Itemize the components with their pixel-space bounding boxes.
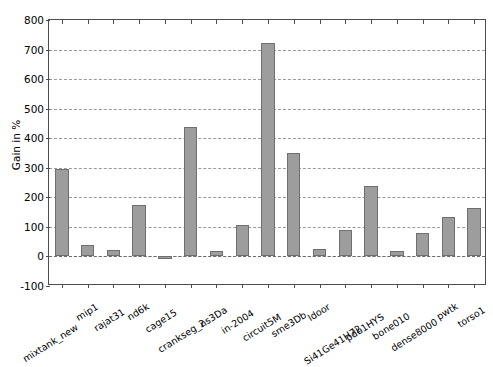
x-axis-tick-mark-top <box>62 20 63 24</box>
x-axis-tick-mark-top <box>191 20 192 24</box>
x-axis-tick-mark <box>191 284 192 288</box>
x-axis-tick-mark-top <box>448 20 449 24</box>
plot-area: -1000100200300400500600700800 <box>48 19 486 285</box>
x-axis-tick-mark-top <box>371 20 372 24</box>
y-axis-tick-mark <box>46 109 50 110</box>
x-axis-tick-mark <box>165 284 166 288</box>
bar <box>55 169 68 257</box>
x-axis-tick-mark <box>371 284 372 288</box>
bar <box>261 43 274 256</box>
y-axis-tick-label: 100 <box>24 221 44 233</box>
x-axis-tick-mark <box>397 284 398 288</box>
bar <box>184 127 197 256</box>
x-axis-tick-mark <box>345 284 346 288</box>
y-axis-tick-label: 0 <box>37 250 44 262</box>
y-axis-tick-label: 600 <box>24 73 44 85</box>
x-axis-tick-label: ldoor <box>306 302 332 323</box>
x-axis-tick-mark-top <box>139 20 140 24</box>
bar <box>313 249 326 256</box>
y-axis-tick-mark <box>46 227 50 228</box>
bar <box>210 251 223 256</box>
bar <box>390 251 403 256</box>
bar <box>364 186 377 257</box>
x-axis-tick-mark <box>320 284 321 288</box>
y-axis-tick-label: 200 <box>24 191 44 203</box>
x-axis-tick-mark <box>448 284 449 288</box>
x-axis-tick-mark <box>474 284 475 288</box>
x-axis-tick-mark-top <box>423 20 424 24</box>
y-axis-tick-label: 700 <box>24 44 44 56</box>
x-axis-tick-mark <box>216 284 217 288</box>
y-axis-title-text: Gain in % <box>10 120 22 170</box>
x-axis-tick-mark-top <box>397 20 398 24</box>
x-axis-tick-label: mip1 <box>74 302 99 323</box>
y-axis-tick-label: 500 <box>24 103 44 115</box>
x-axis-tick-label: torso1 <box>456 305 487 329</box>
y-axis-tick-mark <box>46 138 50 139</box>
bar <box>132 205 145 257</box>
y-axis-tick-label: 400 <box>24 132 44 144</box>
x-axis-tick-mark <box>294 284 295 288</box>
x-axis-tick-mark-top <box>165 20 166 24</box>
x-axis-tick-mark-top <box>113 20 114 24</box>
x-axis-tick-mark <box>268 284 269 288</box>
x-axis-tick-label: mixtank_new <box>21 322 79 363</box>
x-axis-tick-label: nd6k <box>126 302 151 323</box>
x-axis-tick-mark <box>423 284 424 288</box>
x-axis-tick-label: cage15 <box>144 308 179 335</box>
x-axis-tick-mark <box>88 284 89 288</box>
x-axis-tick-mark <box>139 284 140 288</box>
x-axis-tick-mark-top <box>88 20 89 24</box>
y-axis-tick-mark <box>46 20 50 21</box>
x-axis-tick-mark-top <box>320 20 321 24</box>
y-axis-tick-label: 300 <box>24 162 44 174</box>
x-axis-tick-mark <box>62 284 63 288</box>
x-axis-tick-mark-top <box>345 20 346 24</box>
bar <box>467 208 480 256</box>
bar <box>81 245 94 256</box>
x-axis-tick-mark-top <box>268 20 269 24</box>
bar <box>236 225 249 257</box>
y-axis-tick-mark <box>46 79 50 80</box>
y-axis-tick-label: -100 <box>20 280 44 292</box>
x-axis-tick-mark <box>113 284 114 288</box>
bar <box>158 256 171 258</box>
y-axis-tick-mark <box>46 197 50 198</box>
bar <box>287 153 300 256</box>
zero-baseline <box>49 256 485 257</box>
x-axis-tick-mark-top <box>294 20 295 24</box>
y-axis-tick-mark <box>46 168 50 169</box>
bar <box>416 233 429 257</box>
x-axis-tick-mark-top <box>242 20 243 24</box>
bar <box>442 217 455 256</box>
y-axis-tick-mark <box>46 50 50 51</box>
bar <box>107 250 120 257</box>
x-axis-tick-mark <box>242 284 243 288</box>
bar <box>339 230 352 257</box>
x-axis-tick-mark-top <box>474 20 475 24</box>
y-axis-tick-label: 800 <box>24 14 44 26</box>
x-axis-tick-mark-top <box>216 20 217 24</box>
y-axis-tick-mark <box>46 286 50 287</box>
